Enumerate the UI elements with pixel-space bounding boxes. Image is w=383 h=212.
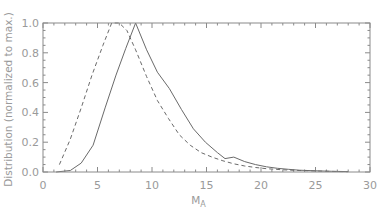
x-tick-label: 30 <box>363 179 377 192</box>
plot-frame <box>43 23 370 172</box>
x-axis-title: MA <box>191 194 206 209</box>
y-tick-label: 0.0 <box>22 166 40 179</box>
chart: 051015202530 0.00.20.40.60.81.0 MA Distr… <box>0 0 383 212</box>
y-tick-label: 0.4 <box>22 106 40 119</box>
y-tick-labels: 0.00.20.40.60.81.0 <box>22 17 40 179</box>
x-tick-label: 10 <box>145 179 159 192</box>
solid-line <box>56 23 348 172</box>
x-axis-title-main: M <box>191 194 200 206</box>
y-tick-label: 0.6 <box>22 77 40 90</box>
x-tick-label: 0 <box>40 179 47 192</box>
axis-ticks <box>43 23 370 172</box>
x-tick-label: 15 <box>200 179 214 192</box>
y-tick-label: 0.2 <box>22 136 40 149</box>
x-axis-title-subscript: A <box>200 200 206 209</box>
x-tick-labels: 051015202530 <box>40 179 378 192</box>
x-tick-label: 25 <box>309 179 323 192</box>
y-axis-title: Distribution (normalized to max.) <box>2 12 14 187</box>
data-series <box>56 23 348 172</box>
dashed-line <box>59 23 348 172</box>
x-tick-label: 5 <box>94 179 101 192</box>
y-tick-label: 0.8 <box>22 47 40 60</box>
x-tick-label: 20 <box>254 179 268 192</box>
y-tick-label: 1.0 <box>22 17 40 30</box>
